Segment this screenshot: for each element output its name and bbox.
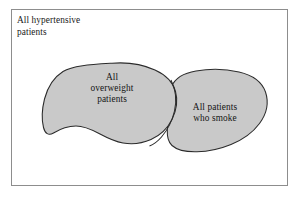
euler-diagram: All hypertensive patients All overweight… bbox=[0, 0, 303, 197]
set-blobs bbox=[0, 0, 303, 197]
set-label-overweight: All overweight patients bbox=[74, 72, 150, 106]
set-label-smokers: All patients who smoke bbox=[178, 102, 252, 124]
